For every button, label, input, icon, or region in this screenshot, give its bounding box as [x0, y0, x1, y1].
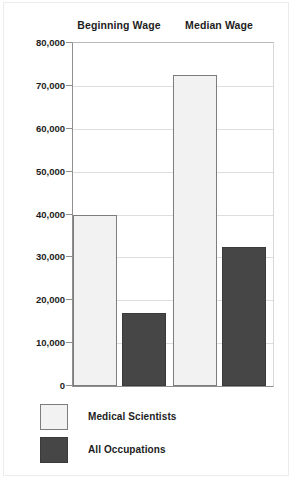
- group-header-row: Beginning Wage Median Wage: [0, 19, 293, 35]
- y-axis-tick-label: 20,000: [5, 294, 65, 305]
- y-axis-tick-label: 60,000: [5, 122, 65, 133]
- y-axis-tick-label: 50,000: [5, 165, 65, 176]
- legend-item-all-occupations: All Occupations: [40, 437, 280, 470]
- y-axis-tick-label: 40,000: [5, 208, 65, 219]
- legend-label-medical-scientists: Medical Scientists: [88, 411, 177, 422]
- legend-label-all-occupations: All Occupations: [88, 444, 166, 455]
- legend-swatch-icon-medical-scientists: [40, 404, 68, 430]
- chart-page: Beginning Wage Median Wage 80,00070,0006…: [0, 0, 293, 481]
- group-header-median-wage: Median Wage: [172, 19, 266, 31]
- bar: [173, 75, 217, 386]
- y-axis-tick-label: 30,000: [5, 251, 65, 262]
- y-axis-tick-label: 10,000: [5, 337, 65, 348]
- y-axis-tick-label: 70,000: [5, 79, 65, 90]
- bar: [222, 247, 266, 386]
- y-axis-tick-label: 0: [5, 380, 65, 391]
- bar: [73, 215, 117, 387]
- legend-swatch-icon-all-occupations: [40, 437, 68, 463]
- plot-area: [72, 42, 274, 387]
- y-axis-tick-label: 80,000: [5, 37, 65, 48]
- chart-legend: Medical Scientists All Occupations: [40, 404, 280, 470]
- bar: [122, 313, 166, 386]
- group-header-beginning-wage: Beginning Wage: [72, 19, 166, 31]
- legend-item-medical-scientists: Medical Scientists: [40, 404, 280, 437]
